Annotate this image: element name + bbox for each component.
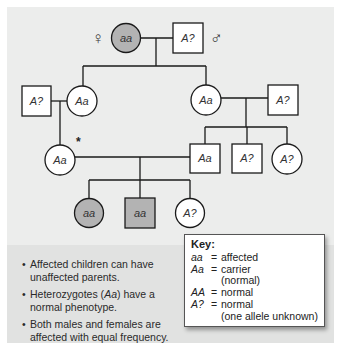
- svg-text:A?: A?: [180, 32, 195, 44]
- gen4-daughter-affected: aa: [75, 199, 104, 228]
- note-item: Heterozygotes (Aa) have a normal phenoty…: [22, 288, 182, 313]
- note-item: Affected children can have unaffected pa…: [22, 258, 182, 283]
- gen3-left-female-marked: Aa *: [45, 135, 81, 175]
- key-entry-unknown: A? = normal: [191, 299, 318, 311]
- gen2-right-spouse-male: A?: [268, 85, 298, 115]
- svg-text:Aa: Aa: [197, 152, 211, 164]
- svg-text:A?: A?: [279, 153, 294, 165]
- gen1-female-affected: aa: [112, 24, 141, 53]
- key-entry-affected: aa = affected: [191, 252, 318, 264]
- key-title: Key:: [191, 239, 318, 251]
- svg-text:A?: A?: [239, 152, 254, 164]
- male-symbol-icon: ♂: [210, 29, 223, 48]
- svg-text:Aa: Aa: [74, 95, 88, 107]
- svg-text:Aa: Aa: [198, 94, 212, 106]
- svg-text:aa: aa: [134, 207, 146, 219]
- pedigree-lines: [51, 38, 287, 199]
- gen1-male: A?: [173, 23, 203, 53]
- gen4-daughter-unknown: A?: [176, 199, 205, 228]
- svg-text:A?: A?: [182, 207, 197, 219]
- gen3-son-carrier: Aa: [190, 144, 220, 173]
- gen3-daughter-unknown: A?: [272, 144, 302, 174]
- gen3-son-unknown: A?: [232, 144, 262, 173]
- svg-text:aa: aa: [83, 207, 95, 219]
- note-item: Both males and females are affected with…: [22, 318, 182, 343]
- svg-text:Aa: Aa: [52, 154, 66, 166]
- legend-key-box: Key: aa = affected Aa = carrier (normal)…: [184, 234, 325, 327]
- gen2-left-spouse-male: A?: [22, 86, 51, 116]
- svg-text:A?: A?: [275, 94, 290, 106]
- svg-text:A?: A?: [29, 95, 44, 107]
- svg-text:aa: aa: [120, 32, 132, 44]
- notes-list: Affected children can have unaffected pa…: [22, 258, 182, 348]
- gen2-left-daughter: Aa: [67, 86, 97, 116]
- gen4-son-affected: aa: [125, 198, 155, 228]
- asterisk-marker-icon: *: [76, 135, 81, 149]
- gen2-right-daughter: Aa: [191, 85, 221, 115]
- female-symbol-icon: ♀: [92, 29, 105, 48]
